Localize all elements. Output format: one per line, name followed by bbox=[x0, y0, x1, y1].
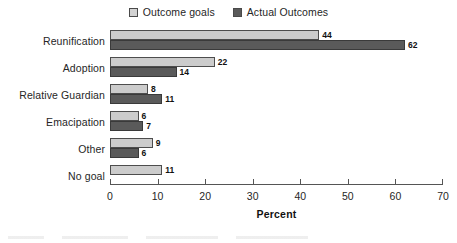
bar-no-goal-outcome-goals bbox=[110, 165, 162, 175]
bar-row: 7 bbox=[110, 121, 450, 131]
bar-other-actual-outcomes bbox=[110, 148, 139, 158]
bar-value-label: 6 bbox=[142, 148, 147, 158]
bar-relative-guardian-outcome-goals bbox=[110, 84, 148, 94]
bar-row: 62 bbox=[110, 40, 450, 50]
x-axis-tick bbox=[300, 179, 301, 184]
bar-value-label: 62 bbox=[408, 40, 417, 50]
bar-emacipation-outcome-goals bbox=[110, 111, 139, 121]
x-axis-tick-label: 10 bbox=[152, 190, 164, 202]
x-axis-tick bbox=[253, 179, 254, 184]
bar-adoption-actual-outcomes bbox=[110, 67, 177, 77]
x-axis-tick bbox=[442, 179, 443, 184]
bar-adoption-outcome-goals bbox=[110, 57, 215, 67]
bar-other-outcome-goals bbox=[110, 138, 153, 148]
bar-row: 14 bbox=[110, 67, 450, 77]
x-axis-tick bbox=[158, 179, 159, 184]
bar-value-label: 14 bbox=[180, 67, 189, 77]
bar-value-label: 44 bbox=[322, 30, 331, 40]
x-axis-tick bbox=[348, 179, 349, 184]
bar-value-label: 8 bbox=[151, 84, 156, 94]
bar-value-label: 7 bbox=[146, 121, 151, 131]
legend-label-actual-outcomes: Actual Outcomes bbox=[247, 6, 328, 18]
x-axis-tick-label: 60 bbox=[390, 190, 402, 202]
bar-row: 8 bbox=[110, 84, 450, 94]
category-label-other: Other bbox=[0, 138, 105, 160]
bar-group: Adoption2214 bbox=[0, 57, 457, 79]
legend-label-outcome-goals: Outcome goals bbox=[143, 6, 215, 18]
category-label-no-goal: No goal bbox=[0, 165, 105, 187]
category-label-reunification: Reunification bbox=[0, 30, 105, 52]
bar-group: Relative Guardian811 bbox=[0, 84, 457, 106]
legend-entry-actual-outcomes: Actual Outcomes bbox=[233, 6, 328, 18]
bar-row: 44 bbox=[110, 30, 450, 40]
bar-value-label: 6 bbox=[142, 111, 147, 121]
bar-reunification-actual-outcomes bbox=[110, 40, 405, 50]
x-axis: 010203040506070 bbox=[110, 184, 443, 185]
bar-value-label: 9 bbox=[156, 138, 161, 148]
chart-legend: Outcome goals Actual Outcomes bbox=[0, 6, 457, 18]
x-axis-tick bbox=[205, 179, 206, 184]
x-axis-tick bbox=[395, 179, 396, 184]
category-label-adoption: Adoption bbox=[0, 57, 105, 79]
bar-reunification-outcome-goals bbox=[110, 30, 319, 40]
bar-value-label: 11 bbox=[165, 94, 174, 104]
x-axis-tick bbox=[110, 179, 111, 184]
bar-row: 9 bbox=[110, 138, 450, 148]
x-axis-tick-label: 0 bbox=[107, 190, 113, 202]
x-axis-tick-label: 30 bbox=[247, 190, 259, 202]
bar-row: 11 bbox=[110, 165, 450, 175]
bars-layer: Reunification4462Adoption2214Relative Gu… bbox=[0, 26, 457, 184]
bar-relative-guardian-actual-outcomes bbox=[110, 94, 162, 104]
legend-swatch-icon-outcome-goals bbox=[129, 8, 138, 17]
bar-value-label: 11 bbox=[165, 165, 174, 175]
x-axis-tick-label: 20 bbox=[199, 190, 211, 202]
bar-value-label: 22 bbox=[218, 57, 227, 67]
bar-row: 22 bbox=[110, 57, 450, 67]
legend-entry-outcome-goals: Outcome goals bbox=[129, 6, 215, 18]
legend-swatch-icon-actual-outcomes bbox=[233, 8, 242, 17]
plot-area: Reunification4462Adoption2214Relative Gu… bbox=[0, 26, 457, 243]
bar-group: Other96 bbox=[0, 138, 457, 160]
x-axis-tick-label: 50 bbox=[342, 190, 354, 202]
x-axis-tick-label: 40 bbox=[294, 190, 306, 202]
bar-row: 6 bbox=[110, 148, 450, 158]
category-label-emacipation: Emacipation bbox=[0, 111, 105, 133]
bar-row: 6 bbox=[110, 111, 450, 121]
x-axis-title: Percent bbox=[110, 208, 443, 220]
page-footer-artifact bbox=[8, 236, 308, 239]
bar-chart: Outcome goals Actual Outcomes Reunificat… bbox=[0, 0, 457, 243]
bar-emacipation-actual-outcomes bbox=[110, 121, 143, 131]
bar-group: Emacipation67 bbox=[0, 111, 457, 133]
category-label-relative-guardian: Relative Guardian bbox=[0, 84, 105, 106]
bar-row: 11 bbox=[110, 94, 450, 104]
bar-group: Reunification4462 bbox=[0, 30, 457, 52]
x-axis-tick-label: 70 bbox=[437, 190, 449, 202]
